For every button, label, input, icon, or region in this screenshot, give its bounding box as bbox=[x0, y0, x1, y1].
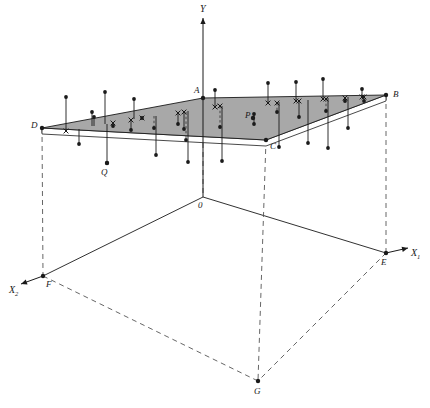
axis-label-x2-subscript: 2 bbox=[15, 290, 19, 297]
data-point-marker bbox=[326, 146, 330, 150]
point-label-P: P bbox=[244, 110, 251, 120]
data-point-marker bbox=[324, 109, 328, 113]
data-point-marker bbox=[294, 80, 298, 84]
observation-22 bbox=[266, 81, 271, 105]
data-point-marker bbox=[64, 95, 68, 99]
y-axis-arrow bbox=[200, 18, 205, 24]
point-marker-E bbox=[384, 251, 388, 255]
point-marker-G bbox=[256, 379, 260, 383]
observation-10 bbox=[140, 116, 145, 121]
axes-layer bbox=[21, 18, 408, 284]
point-marker-F bbox=[41, 274, 45, 278]
point-label-Q: Q bbox=[101, 167, 108, 177]
base-plane-edges bbox=[43, 197, 386, 381]
drop-line-DF bbox=[42, 128, 43, 276]
data-point-marker bbox=[360, 87, 364, 91]
point-E: E bbox=[380, 251, 388, 267]
data-point-marker bbox=[297, 115, 301, 119]
data-point-marker bbox=[346, 126, 350, 130]
data-point-marker bbox=[306, 141, 310, 145]
point-label-B: B bbox=[393, 89, 399, 99]
point-marker-B bbox=[384, 93, 388, 97]
point-label-F: F bbox=[45, 279, 52, 289]
point-G: G bbox=[254, 379, 261, 396]
data-point-marker bbox=[266, 81, 270, 85]
data-point-marker bbox=[176, 122, 180, 126]
point-D: D bbox=[30, 120, 44, 130]
axis-label-y: Y bbox=[200, 3, 207, 14]
data-point-marker bbox=[343, 99, 347, 103]
drop-line-CG bbox=[258, 140, 266, 381]
data-point-marker bbox=[92, 115, 96, 119]
data-point-marker bbox=[220, 159, 224, 163]
x1-axis-arrow bbox=[402, 247, 408, 252]
base-edge-FG bbox=[43, 276, 258, 381]
base-edge-OE bbox=[203, 197, 386, 253]
data-point-marker bbox=[218, 125, 222, 129]
data-point-marker bbox=[140, 116, 144, 120]
data-point-marker bbox=[321, 77, 325, 81]
point-O: 0 bbox=[198, 200, 203, 210]
point-label-A: A bbox=[193, 85, 200, 95]
point-label-D: D bbox=[30, 120, 38, 130]
point-marker-D bbox=[40, 126, 44, 130]
data-point-marker bbox=[252, 122, 256, 126]
point-marker-Q bbox=[105, 161, 109, 165]
axis-label-x1-subscript: 1 bbox=[417, 253, 420, 260]
figure-canvas: ABCDEFGPQ0 Y X 1 X 2 bbox=[0, 0, 430, 408]
data-point-marker bbox=[154, 153, 158, 157]
data-point-marker bbox=[129, 128, 133, 132]
point-label-E: E bbox=[380, 257, 387, 267]
data-point-marker bbox=[277, 145, 281, 149]
data-point-marker bbox=[213, 88, 217, 92]
base-edge-EG bbox=[258, 253, 386, 381]
point-label-G: G bbox=[254, 386, 261, 396]
point-marker-P bbox=[251, 116, 255, 120]
data-point-marker bbox=[132, 97, 136, 101]
point-Q: Q bbox=[101, 161, 109, 177]
data-point-marker bbox=[182, 127, 186, 131]
data-point-marker bbox=[103, 90, 107, 94]
data-point-marker bbox=[186, 160, 190, 164]
data-point-marker bbox=[90, 110, 94, 114]
data-point-marker bbox=[362, 99, 366, 103]
point-F: F bbox=[41, 274, 52, 289]
regression-plane-figure: ABCDEFGPQ0 Y X 1 X 2 bbox=[0, 0, 430, 408]
point-marker-C bbox=[264, 138, 268, 142]
point-label-O: 0 bbox=[198, 200, 203, 210]
data-point-marker bbox=[111, 124, 115, 128]
data-point-marker bbox=[77, 142, 81, 146]
data-point-marker bbox=[275, 110, 279, 114]
data-point-marker bbox=[184, 138, 188, 142]
axis-labels-layer: Y X 1 X 2 bbox=[8, 3, 420, 297]
data-point-marker bbox=[152, 126, 156, 130]
data-point-marker bbox=[252, 112, 256, 116]
point-label-C: C bbox=[270, 141, 277, 151]
x2-axis-arrow bbox=[21, 280, 28, 285]
base-edge-OF bbox=[43, 197, 203, 276]
point-marker-A bbox=[201, 96, 205, 100]
